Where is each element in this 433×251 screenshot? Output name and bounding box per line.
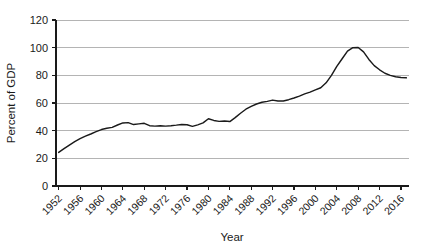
y-tick-label: 20: [36, 152, 48, 164]
y-tick-label: 40: [36, 125, 48, 137]
y-tick-label: 100: [30, 42, 48, 54]
y-axis-title: Percent of GDP: [5, 62, 17, 143]
y-tick-label: 0: [42, 180, 48, 192]
x-axis-title: Year: [220, 231, 243, 243]
line-chart: 020406080100120 195219561960196419681972…: [0, 0, 433, 251]
y-tick-label: 80: [36, 69, 48, 81]
y-tick-label: 60: [36, 97, 48, 109]
y-tick-label: 120: [30, 14, 48, 26]
chart-container: 020406080100120 195219561960196419681972…: [0, 0, 433, 251]
